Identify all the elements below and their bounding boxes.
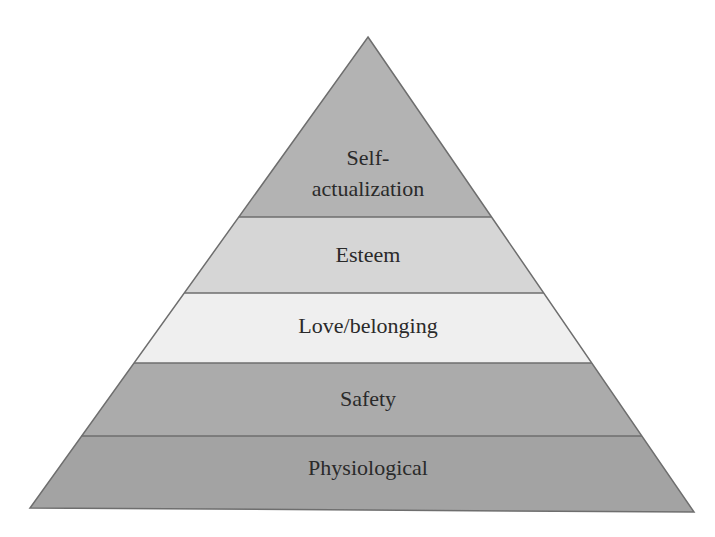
- label-love-belonging: Love/belonging: [298, 313, 437, 338]
- label-esteem: Esteem: [336, 242, 401, 267]
- pyramid-layers: [30, 37, 694, 512]
- maslow-pyramid-diagram: Self- actualization Esteem Love/belongin…: [0, 0, 715, 537]
- label-self-actualization-line2: actualization: [312, 176, 424, 201]
- label-self-actualization-line1: Self-: [347, 145, 390, 170]
- label-physiological: Physiological: [308, 455, 428, 480]
- label-safety: Safety: [340, 386, 396, 411]
